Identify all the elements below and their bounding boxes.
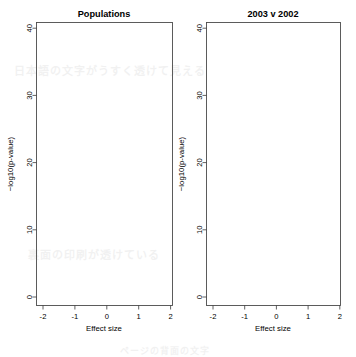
xtick-label-2: 2 — [168, 312, 172, 321]
ytick-label-0: 0 — [195, 295, 204, 299]
ytick-label-10: 10 — [25, 226, 34, 234]
ytick-label-40: 40 — [195, 24, 204, 32]
volcano-plot-figure: Populations 010203040 −log10(p-value) -2… — [0, 0, 356, 357]
ytick-label-10: 10 — [195, 226, 204, 234]
panel-left-ylabel: −log10(p-value) — [6, 136, 15, 191]
panel-left-xaxis: -2-1012 — [40, 306, 173, 321]
panel-left-title: Populations — [78, 9, 131, 19]
xtick-label-2: 2 — [338, 312, 342, 321]
xtick-label-1: 1 — [306, 312, 310, 321]
ytick-label-30: 30 — [195, 91, 204, 99]
panel-right: 2003 v 2002 010203040 −log10(p-value) -2… — [177, 9, 342, 333]
panel-left-yaxis: 010203040 — [25, 24, 37, 299]
xtick-label-1: 1 — [137, 312, 141, 321]
ytick-label-20: 20 — [195, 158, 204, 166]
panel-right-xaxis: -2-1012 — [210, 306, 342, 321]
xtick-label--2: -2 — [210, 312, 217, 321]
panel-left-xlabel: Effect size — [86, 324, 122, 333]
ytick-label-0: 0 — [25, 295, 34, 299]
ytick-label-30: 30 — [25, 91, 34, 99]
panel-right-title: 2003 v 2002 — [247, 9, 298, 19]
panel-left-frame — [37, 23, 173, 306]
panel-right-ylabel: −log10(p-value) — [177, 136, 186, 191]
ytick-label-40: 40 — [25, 24, 34, 32]
panel-right-frame — [207, 23, 341, 306]
ytick-label-20: 20 — [25, 158, 34, 166]
xtick-label-0: 0 — [105, 312, 109, 321]
panel-right-xlabel: Effect size — [255, 324, 291, 333]
panel-right-yaxis: 010203040 — [195, 24, 207, 299]
panel-left: Populations 010203040 −log10(p-value) -2… — [6, 9, 173, 333]
xtick-label--2: -2 — [40, 312, 47, 321]
xtick-label-0: 0 — [274, 312, 278, 321]
xtick-label--1: -1 — [72, 312, 79, 321]
xtick-label--1: -1 — [241, 312, 248, 321]
